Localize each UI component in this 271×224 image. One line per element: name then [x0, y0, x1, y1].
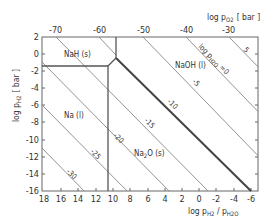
bottom-tick: 4 — [162, 194, 167, 204]
bottom-tick: 6 — [145, 194, 150, 204]
bottom-tick: -6 — [247, 194, 255, 204]
isobar-minus20-top — [99, 37, 116, 55]
isobar-minus30 — [42, 148, 88, 195]
top-tick: -40 — [180, 25, 193, 35]
boundary-triple-diag — [108, 58, 116, 66]
bottom-tick: 10 — [108, 194, 118, 204]
boundary-naoh-na2o — [116, 58, 251, 191]
left-tick: -8 — [31, 117, 39, 127]
top-axis-title: log pO2[ bar ] — [207, 12, 260, 23]
isobar-label-minus25: -25 — [89, 147, 103, 161]
bottom-tick: -2 — [212, 194, 220, 204]
left-tick: -2 — [31, 66, 39, 76]
bottom-tick: 0 — [196, 194, 201, 204]
left-tick: -4 — [31, 83, 39, 93]
bottom-tick: 16 — [56, 194, 66, 204]
left-tick: -12 — [26, 152, 39, 162]
isobar-label-minus20: -20 — [112, 131, 126, 145]
region-label-naoh: NaOH (l) — [175, 61, 206, 70]
isobar-minus5 — [143, 37, 271, 199]
bottom-tick: 8 — [127, 194, 132, 204]
bottom-axis-ticks: 18 16 14 12 10 8 6 4 2 0 -2 -4 -6 — [39, 194, 255, 204]
left-tick: 2 — [34, 32, 39, 42]
isobar-label-minus15: -15 — [143, 116, 157, 130]
phase-diagram: log pO2[ bar ] -70 -60 -50 -40 -30 log p… — [0, 0, 271, 224]
left-tick: -14 — [26, 169, 39, 179]
top-tick: -60 — [93, 25, 106, 35]
isobar-label-plus5: 5 — [242, 45, 251, 54]
isobar-minus25 — [42, 105, 131, 195]
top-tick: -70 — [49, 25, 62, 35]
left-tick: -16 — [26, 186, 39, 196]
bottom-tick: 18 — [39, 194, 49, 204]
isobar-label-minus5: -5 — [191, 77, 202, 88]
isobar-label-h2o: log pH2O =0 — [196, 42, 231, 77]
top-axis-ticks: -70 -60 -50 -40 -30 — [49, 25, 235, 35]
region-label-na: Na (l) — [64, 111, 84, 120]
bottom-tick: 14 — [73, 194, 83, 204]
left-axis-ticks: 2 0 -2 -4 -6 -8 -10 -12 -14 -16 — [26, 32, 39, 196]
bottom-tick: 12 — [91, 194, 101, 204]
top-tick: -30 — [222, 25, 235, 35]
svg-text:log pH2[ bar ]: log pH2[ bar ] — [11, 69, 22, 122]
bottom-tick: 2 — [179, 194, 184, 204]
left-axis-title: log pH2[ bar ] — [11, 69, 22, 122]
bottom-tick: -4 — [230, 194, 238, 204]
top-tick: -50 — [137, 25, 150, 35]
left-tick: -6 — [31, 100, 39, 110]
svg-text:log pO2[ bar ]: log pO2[ bar ] — [207, 12, 260, 23]
isobar-label-minus30: -30 — [65, 167, 79, 181]
region-label-na2o: Na2O (s) — [134, 149, 165, 159]
left-tick: 0 — [34, 49, 39, 59]
left-tick: -10 — [26, 135, 39, 145]
svg-text:log pH2 / pH2O: log pH2 / pH2O — [188, 206, 239, 217]
isobar-labels: log pH2O =0 5 -5 -10 -15 -20 -25 -30 — [65, 42, 251, 181]
bottom-axis-title: log pH2 / pH2O — [188, 206, 239, 217]
region-label-nah: NaH (s) — [64, 50, 91, 59]
